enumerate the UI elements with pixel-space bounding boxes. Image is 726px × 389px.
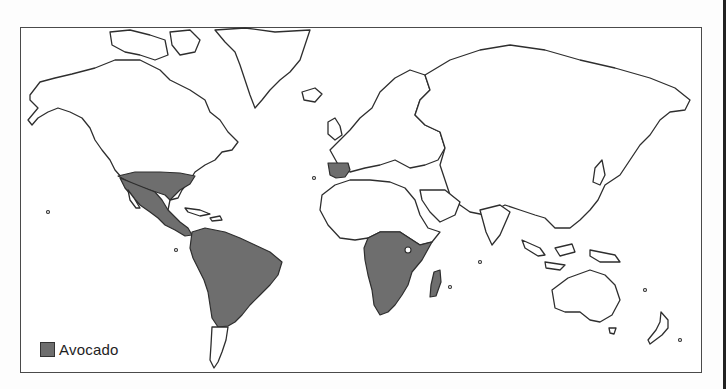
arctic-islands — [110, 30, 200, 60]
map-legend: Avocado — [40, 341, 119, 358]
island — [644, 289, 647, 292]
legend-swatch-avocado — [40, 342, 55, 357]
greenland — [215, 28, 310, 108]
india — [480, 205, 510, 245]
island — [679, 339, 682, 342]
island — [479, 261, 482, 264]
region-madagascar — [430, 270, 441, 297]
indonesia — [522, 240, 620, 270]
world-map — [0, 0, 726, 389]
tasmania — [609, 328, 616, 334]
region-sub-saharan-africa — [364, 232, 432, 315]
australia — [552, 270, 620, 322]
caribbean-islands — [185, 208, 222, 221]
region-iberia — [328, 163, 350, 178]
region-south-america — [190, 228, 282, 327]
island — [47, 211, 50, 214]
lake-victoria — [405, 247, 411, 253]
new-zealand — [648, 312, 668, 344]
legend-label-avocado: Avocado — [59, 341, 119, 358]
great-britain — [328, 118, 342, 140]
island — [313, 177, 316, 180]
island — [175, 249, 178, 252]
south-america-south — [210, 327, 228, 368]
iceland — [302, 88, 322, 102]
island — [449, 286, 452, 289]
